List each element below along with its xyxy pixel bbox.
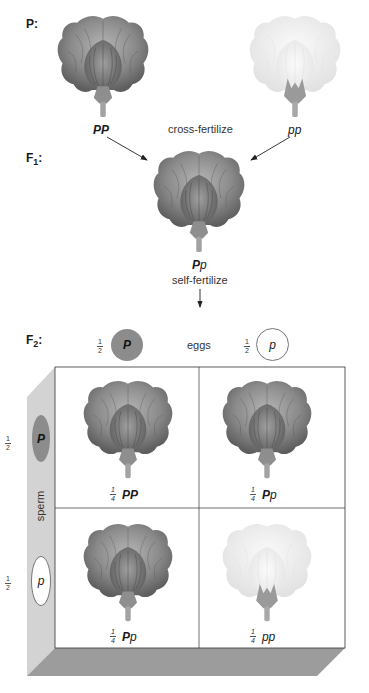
cell-heterozygous-bottom-flower bbox=[83, 523, 173, 623]
cell-label: 14 pp bbox=[250, 628, 275, 645]
sperm-dominant-allele: P bbox=[32, 415, 50, 462]
punnett-square-frame bbox=[0, 0, 369, 693]
fraction-denominator: 4 bbox=[251, 495, 255, 503]
fraction-numerator: 1 bbox=[5, 575, 11, 584]
fraction-denominator: 2 bbox=[6, 584, 10, 592]
sperm-dominant-fraction: 12 bbox=[5, 434, 11, 452]
cell-label: 14 PP bbox=[110, 486, 138, 503]
sperm-recessive-allele: p bbox=[31, 556, 51, 606]
fraction-numerator: 1 bbox=[110, 628, 116, 637]
fraction-denominator: 4 bbox=[111, 637, 115, 645]
sperm-label: sperm bbox=[34, 491, 46, 522]
genotype-dominant-part: P bbox=[122, 630, 130, 644]
fraction-numerator: 1 bbox=[110, 486, 116, 495]
cell-heterozygous-top-flower bbox=[222, 380, 312, 480]
fraction-numerator: 1 bbox=[250, 486, 256, 495]
cell-pp-dominant-flower bbox=[83, 380, 173, 480]
genotype-recessive-part: p bbox=[270, 488, 277, 502]
punnett-side-panel bbox=[27, 367, 55, 676]
genotype-dominant-part: PP bbox=[122, 488, 138, 502]
fraction-denominator: 4 bbox=[111, 495, 115, 503]
cell-pp-recessive-flower bbox=[222, 523, 312, 623]
cell-label: 14 Pp bbox=[250, 486, 277, 503]
genotype-recessive-part: pp bbox=[262, 630, 275, 644]
punnett-bottom-shadow bbox=[27, 648, 345, 676]
sperm-recessive-fraction: 12 bbox=[5, 574, 11, 592]
genotype-dominant-part: P bbox=[262, 488, 270, 502]
fraction-denominator: 4 bbox=[251, 637, 255, 645]
genotype-recessive-part: p bbox=[130, 630, 137, 644]
fraction-numerator: 1 bbox=[250, 628, 256, 637]
fraction-numerator: 1 bbox=[5, 435, 11, 444]
cell-label: 14 Pp bbox=[110, 628, 137, 645]
fraction-denominator: 2 bbox=[6, 444, 10, 452]
